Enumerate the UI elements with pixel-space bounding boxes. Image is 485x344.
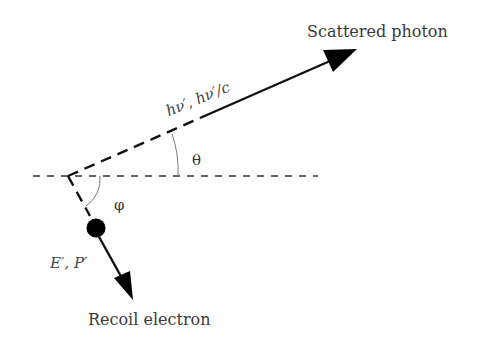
recoil-electron-label: Recoil electron — [88, 310, 210, 329]
photon-dashed-segment — [68, 118, 200, 176]
compton-diagram — [0, 0, 485, 344]
electron-solid-segment — [98, 235, 123, 280]
phi-arc — [86, 176, 100, 206]
photon-arrowhead-icon — [323, 49, 357, 72]
electron-arrowhead-icon — [114, 271, 133, 300]
electron-dot — [87, 219, 106, 238]
theta-arc — [172, 134, 178, 176]
theta-label: θ — [192, 151, 201, 169]
phi-label: φ — [114, 196, 125, 214]
scattered-photon-label: Scattered photon — [307, 22, 448, 41]
electron-dashed-segment — [68, 176, 90, 216]
electron-quantity-label: E′, P′ — [50, 254, 87, 272]
